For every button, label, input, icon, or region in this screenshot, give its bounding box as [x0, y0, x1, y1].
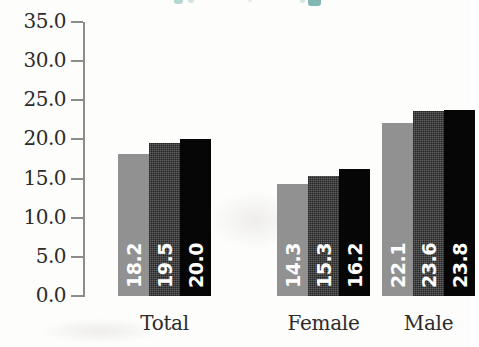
y-axis-tick-mark	[71, 295, 83, 297]
bar-value-label: 18.2	[124, 243, 143, 288]
y-axis-tick-mark	[71, 217, 83, 219]
bar-male-series-3: 23.8	[444, 110, 475, 296]
category-label-male: Male	[362, 311, 479, 335]
y-axis-tick-label: 25.0	[0, 87, 66, 111]
bar-total-series-3: 20.0	[180, 139, 211, 296]
bar-value-label-wrapper: 15.3	[308, 230, 339, 288]
y-axis-line	[83, 22, 85, 297]
y-axis-tick-mark	[71, 60, 83, 62]
bar-female-series-1: 14.3	[277, 184, 308, 296]
y-axis-tick-mark	[71, 21, 83, 23]
bar-value-label-wrapper: 20.0	[180, 230, 211, 288]
y-axis-tick-label: 20.0	[0, 126, 66, 150]
y-axis-tick-label: 0.0	[0, 283, 66, 307]
bar-value-label: 15.3	[314, 243, 333, 288]
y-axis-tick-label: 15.0	[0, 166, 66, 190]
bar-value-label: 19.5	[155, 243, 174, 288]
bar-value-label-wrapper: 18.2	[118, 230, 149, 288]
y-axis-tick-mark	[71, 178, 83, 180]
bar-value-label: 20.0	[186, 243, 205, 288]
y-axis-tick-label: 35.0	[0, 9, 66, 33]
bar-female-series-2: 15.3	[308, 176, 339, 296]
bar-value-label: 23.6	[419, 243, 438, 288]
bar-value-label: 23.8	[450, 243, 469, 288]
bar-value-label: 22.1	[388, 243, 407, 288]
y-axis-tick-label: 30.0	[0, 48, 66, 72]
category-label-total: Total	[98, 311, 231, 335]
y-axis-tick-mark	[71, 138, 83, 140]
bar-value-label-wrapper: 22.1	[382, 230, 413, 288]
bar-value-label-wrapper: 19.5	[149, 230, 180, 288]
bar-value-label-wrapper: 23.8	[444, 230, 475, 288]
bar-value-label-wrapper: 16.2	[339, 230, 370, 288]
bar-value-label-wrapper: 23.6	[413, 230, 444, 288]
bar-value-label: 16.2	[345, 243, 364, 288]
bar-total-series-1: 18.2	[118, 154, 149, 296]
bar-value-label: 14.3	[283, 243, 302, 288]
y-axis-tick-label: 10.0	[0, 205, 66, 229]
bar-female-series-3: 16.2	[339, 169, 370, 296]
bar-male-series-1: 22.1	[382, 123, 413, 296]
bar-total-series-2: 19.5	[149, 143, 180, 296]
y-axis-tick-label: 5.0	[0, 244, 66, 268]
bar-male-series-2: 23.6	[413, 111, 444, 296]
y-axis-tick-mark	[71, 99, 83, 101]
bar-value-label-wrapper: 14.3	[277, 230, 308, 288]
y-axis-tick-mark	[71, 256, 83, 258]
